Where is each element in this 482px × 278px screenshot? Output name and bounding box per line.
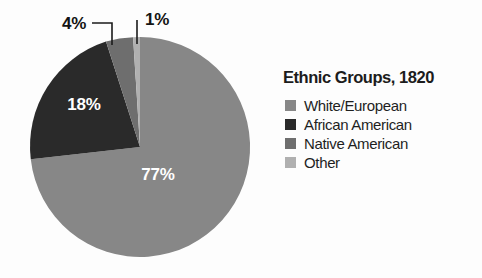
legend-item-native-american[interactable]: Native American bbox=[283, 134, 482, 153]
callout-value-other: 1% bbox=[145, 10, 169, 29]
legend-title: Ethnic Groups, 1820 bbox=[283, 68, 482, 87]
slice-value-white-european: 77% bbox=[141, 165, 175, 184]
legend-label-white-european: White/European bbox=[304, 96, 407, 115]
legend-item-african-american[interactable]: African American bbox=[283, 115, 482, 134]
legend-label-african-american: African American bbox=[304, 115, 412, 134]
legend-swatch-african-american bbox=[285, 119, 296, 130]
slice-value-african-american: 18% bbox=[67, 95, 101, 114]
chart-canvas: 77% 18% 4% 1% Ethnic Groups, 1820 White/… bbox=[0, 0, 482, 278]
legend-swatch-white-european bbox=[285, 100, 296, 111]
chart-legend: Ethnic Groups, 1820 White/European Afric… bbox=[283, 68, 482, 172]
pie-chart-svg: 77% 18% 4% 1% bbox=[0, 0, 278, 278]
legend-label-native-american: Native American bbox=[304, 134, 408, 153]
legend-item-white-european[interactable]: White/European bbox=[283, 96, 482, 115]
callout-value-native-american: 4% bbox=[62, 14, 86, 33]
legend-item-other[interactable]: Other bbox=[283, 153, 482, 172]
pie-chart: 77% 18% 4% 1% bbox=[0, 0, 278, 278]
legend-swatch-other bbox=[285, 157, 296, 168]
legend-swatch-native-american bbox=[285, 138, 296, 149]
legend-label-other: Other bbox=[304, 153, 340, 172]
